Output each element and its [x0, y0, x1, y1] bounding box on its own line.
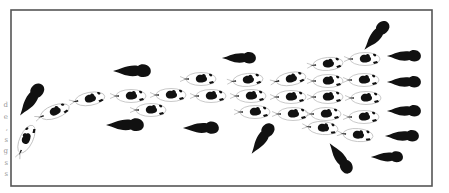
fish-school-diagram	[0, 0, 449, 193]
